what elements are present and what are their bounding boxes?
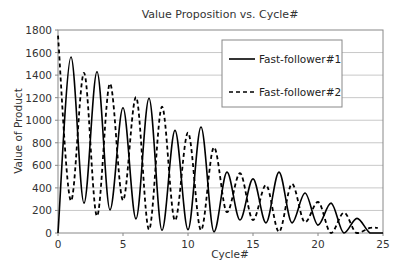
chart-title: Value Proposition vs. Cycle# — [142, 8, 299, 21]
y-tick-label: 200 — [32, 204, 52, 216]
x-tick-label: 20 — [311, 238, 324, 250]
x-tick-label: 0 — [55, 238, 62, 250]
y-tick-label: 1400 — [25, 69, 52, 81]
x-tick-label: 10 — [181, 238, 194, 250]
x-axis-label: Cycle# — [211, 248, 249, 260]
legend-entry-2: Fast-follower#2 — [259, 86, 341, 98]
y-tick-label: 800 — [32, 137, 52, 149]
legend-entry-1: Fast-follower#1 — [259, 53, 341, 65]
y-tick-label: 0 — [45, 227, 52, 239]
y-tick-label: 1000 — [25, 114, 52, 126]
x-tick-label: 5 — [120, 238, 127, 250]
y-tick-label: 600 — [32, 159, 52, 171]
y-axis-ticks: 020040060080010001200140016001800 — [25, 24, 58, 239]
legend: Fast-follower#1 Fast-follower#2 — [222, 40, 342, 107]
x-tick-label: 25 — [376, 238, 389, 250]
y-tick-label: 400 — [32, 182, 52, 194]
y-tick-label: 1800 — [25, 24, 52, 36]
y-tick-label: 1200 — [25, 92, 52, 104]
chart-canvas: Value Proposition vs. Cycle# 02004006008… — [0, 0, 402, 274]
y-axis-label: Value of Product — [12, 88, 24, 174]
y-tick-label: 1600 — [25, 47, 52, 59]
